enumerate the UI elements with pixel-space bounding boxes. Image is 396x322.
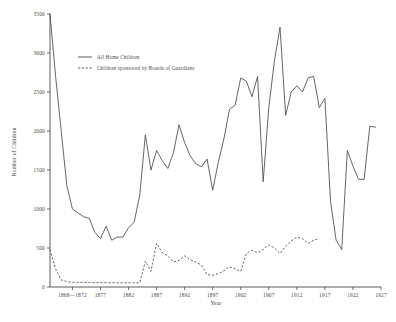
y-tick-label: 3500: [33, 11, 45, 17]
y-tick-label: 2000: [33, 128, 45, 134]
x-axis-tick-labels: 1868—18721877188218871892189719021907191…: [58, 292, 387, 298]
x-axis-title: Year: [210, 300, 221, 306]
x-tick-label: 1877: [95, 292, 107, 298]
y-tick-label: 500: [36, 245, 45, 251]
legend-label-0: All Home Children: [97, 54, 140, 60]
x-tick-label: 1917: [319, 292, 331, 298]
line-chart: 0500100015002000250030003500 1868—187218…: [0, 0, 396, 322]
x-tick-label: 1922: [347, 292, 359, 298]
x-tick-label: 1897: [207, 292, 219, 298]
chart-container: 0500100015002000250030003500 1868—187218…: [0, 0, 396, 322]
x-axis-ticks: [72, 287, 381, 290]
y-tick-label: 2500: [33, 89, 45, 95]
x-tick-label: 1887: [151, 292, 163, 298]
x-tick-label: 1882: [123, 292, 135, 298]
series-line-all-home-children: [50, 14, 375, 250]
y-axis-tick-labels: 0500100015002000250030003500: [33, 11, 45, 290]
y-tick-label: 1000: [33, 206, 45, 212]
y-tick-label: 1500: [33, 167, 45, 173]
x-tick-label: 1927: [375, 292, 387, 298]
series-line-boards-of-guardians: [50, 237, 319, 283]
legend-label-1: Children sponsored by Boards of Guardian…: [97, 65, 194, 71]
x-tick-label: 1907: [263, 292, 275, 298]
x-tick-label: 1912: [291, 292, 303, 298]
x-tick-label: 1868—1872: [58, 292, 87, 298]
x-tick-label: 1892: [179, 292, 191, 298]
y-tick-label: 0: [42, 284, 45, 290]
y-tick-label: 3000: [33, 50, 45, 56]
x-tick-label: 1902: [235, 292, 247, 298]
y-axis-title: Number of Children: [11, 128, 17, 177]
chart-legend: All Home Children Children sponsored by …: [78, 54, 194, 71]
